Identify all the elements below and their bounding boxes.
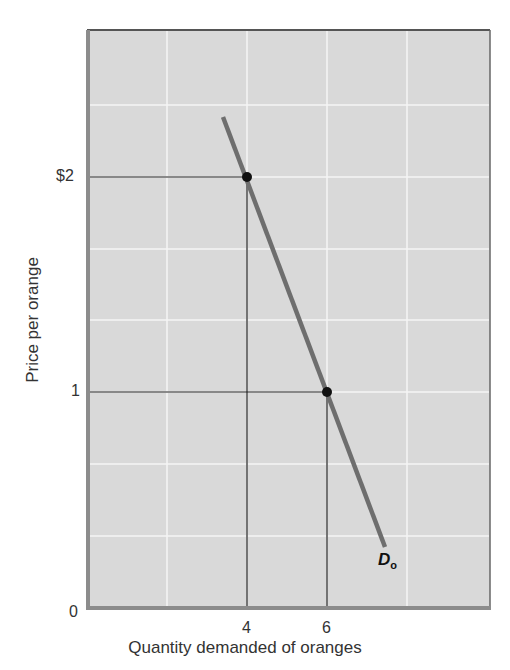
plot-area	[87, 30, 490, 608]
y-tick-1: 1	[71, 382, 80, 400]
y-axis-title: Price per orange	[23, 257, 43, 383]
data-point-4-2	[242, 172, 252, 182]
curve-label-d0: Do	[378, 550, 397, 571]
data-point-6-1	[322, 387, 332, 397]
x-tick-6: 6	[322, 619, 331, 637]
x-tick-4: 4	[242, 619, 251, 637]
curve-label-subscript: o	[390, 559, 397, 571]
y-tick-0: 0	[69, 603, 78, 621]
curve-label-main: D	[378, 550, 390, 569]
demand-chart	[0, 0, 510, 670]
y-tick-2: $2	[56, 167, 74, 185]
x-axis-title: Quantity demanded of oranges	[128, 638, 361, 658]
